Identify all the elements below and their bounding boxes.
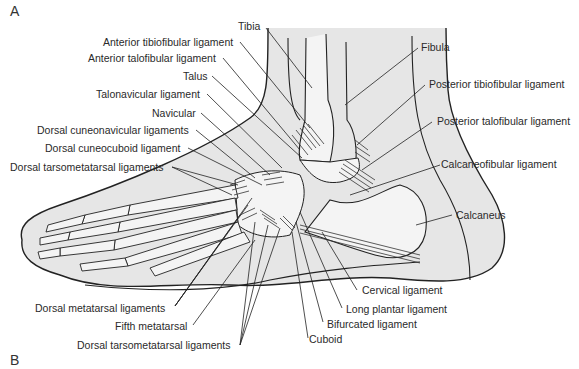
label-dorsal-tarsometatarsal-ligaments-bottom: Dorsal tarsometatarsal ligaments: [77, 339, 230, 351]
label-cervical-ligament: Cervical ligament: [362, 284, 443, 296]
label-dorsal-cuneocuboid-ligament: Dorsal cuneocuboid ligament: [45, 142, 180, 154]
label-navicular: Navicular: [152, 107, 196, 119]
label-fibula: Fibula: [421, 41, 450, 53]
label-tibia: Tibia: [238, 20, 260, 32]
label-fifth-metatarsal: Fifth metatarsal: [115, 320, 187, 332]
label-dorsal-cuneonavicular-ligaments: Dorsal cuneonavicular ligaments: [37, 124, 189, 136]
label-anterior-tibiofibular-ligament: Anterior tibiofibular ligament: [103, 36, 233, 48]
label-posterior-tibiofibular-ligament: Posterior tibiofibular ligament: [429, 78, 564, 90]
label-dorsal-tarsometatarsal-ligaments-top: Dorsal tarsometatarsal ligaments: [10, 161, 163, 173]
label-talus: Talus: [183, 70, 208, 82]
panel-label-a: A: [10, 3, 19, 19]
label-bifurcated-ligament: Bifurcated ligament: [327, 318, 417, 330]
label-anterior-talofibular-ligament: Anterior talofibular ligament: [88, 52, 216, 64]
label-calcaneus: Calcaneus: [456, 209, 506, 221]
label-posterior-talofibular-ligament: Posterior talofibular ligament: [437, 115, 570, 127]
label-cuboid: Cuboid: [309, 333, 342, 345]
label-dorsal-metatarsal-ligaments: Dorsal metatarsal ligaments: [35, 302, 165, 314]
label-calcaneofibular-ligament: Calcaneofibular ligament: [441, 158, 557, 170]
panel-label-b: B: [10, 352, 19, 368]
label-talonavicular-ligament: Talonavicular ligament: [96, 88, 200, 100]
label-long-plantar-ligament: Long plantar ligament: [346, 303, 447, 315]
